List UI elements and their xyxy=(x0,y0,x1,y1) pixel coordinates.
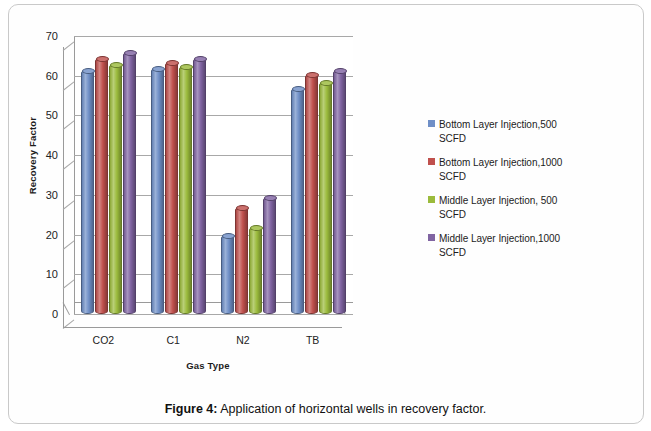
bar xyxy=(123,52,136,314)
bar-cap xyxy=(236,205,249,211)
bar xyxy=(81,70,94,314)
bar xyxy=(249,227,262,314)
legend-item: Bottom Layer Injection,1000SCFD xyxy=(428,156,638,183)
x-axis-tick-label: TB xyxy=(278,334,348,346)
bar-group-c1 xyxy=(151,50,206,314)
bar-group-n2 xyxy=(221,50,276,314)
bar xyxy=(193,58,206,314)
bar-cap xyxy=(82,68,95,74)
chart-legend: Bottom Layer Injection,500SCFDBottom Lay… xyxy=(428,118,638,270)
legend-swatch-icon xyxy=(428,120,435,127)
bar xyxy=(291,88,304,314)
bar xyxy=(305,74,318,314)
bar-cap xyxy=(264,195,277,201)
y-axis-tick-label: 20 xyxy=(30,230,58,241)
x-axis-tick-labels: CO2C1N2TB xyxy=(63,334,353,352)
legend-item: Middle Layer Injection, 500SCFD xyxy=(428,194,638,221)
x-axis-tick-label: N2 xyxy=(208,334,278,346)
bar-cap xyxy=(180,64,193,70)
bar xyxy=(179,66,192,314)
y-axis-tick-label: 50 xyxy=(30,110,58,121)
plot-area xyxy=(63,36,353,328)
bar-cap xyxy=(124,50,137,56)
caption-text: Application of horizontal wells in recov… xyxy=(217,402,486,416)
bar xyxy=(319,82,332,314)
y-axis-tick-labels: 706050403020100 xyxy=(30,40,58,330)
bar-cap xyxy=(292,86,305,92)
bar-group-tb xyxy=(291,50,346,314)
caption-figure-number: Figure 4: xyxy=(165,402,218,416)
bar-cap xyxy=(152,66,165,72)
legend-label: Bottom Layer Injection,1000SCFD xyxy=(439,156,562,183)
legend-item: Bottom Layer Injection,500SCFD xyxy=(428,118,638,145)
x-axis-tick-label: CO2 xyxy=(69,334,139,346)
y-axis-tick-label: 40 xyxy=(30,150,58,161)
bar xyxy=(151,68,164,314)
legend-swatch-icon xyxy=(428,158,435,165)
bar xyxy=(235,207,248,314)
bar-cap xyxy=(334,68,347,74)
bar-group-co2 xyxy=(81,50,136,314)
bar-cap xyxy=(166,60,179,66)
y-axis-tick-label: 0 xyxy=(30,309,58,320)
bar-series-container xyxy=(63,36,353,328)
y-axis-tick-label: 30 xyxy=(30,190,58,201)
bar-cap xyxy=(306,72,319,78)
bar xyxy=(221,235,234,314)
bar-cap xyxy=(194,56,207,62)
bar xyxy=(263,197,276,314)
legend-label: Bottom Layer Injection,500SCFD xyxy=(439,118,557,145)
x-axis-tick-label: C1 xyxy=(138,334,208,346)
bar-cap xyxy=(320,80,333,86)
figure-caption: Figure 4: Application of horizontal well… xyxy=(0,402,651,416)
bar-cap xyxy=(110,62,123,68)
x-axis-title: Gas Type xyxy=(63,360,353,371)
legend-swatch-icon xyxy=(428,196,435,203)
bar xyxy=(333,70,346,314)
legend-label: Middle Layer Injection, 500SCFD xyxy=(439,194,557,221)
bar xyxy=(95,58,108,314)
y-axis-tick-label: 70 xyxy=(30,31,58,42)
bar xyxy=(165,62,178,314)
legend-label: Middle Layer Injection,1000SCFD xyxy=(439,232,560,259)
legend-swatch-icon xyxy=(428,234,435,241)
figure-chart: Recovery Factor 706050403020100 CO2C1N2T… xyxy=(0,0,651,431)
y-axis-tick-label: 60 xyxy=(30,71,58,82)
y-axis-tick-label: 10 xyxy=(30,269,58,280)
legend-item: Middle Layer Injection,1000SCFD xyxy=(428,232,638,259)
bar xyxy=(109,64,122,314)
bar-cap xyxy=(96,56,109,62)
bar-cap xyxy=(250,225,263,231)
bar-cap xyxy=(222,233,235,239)
